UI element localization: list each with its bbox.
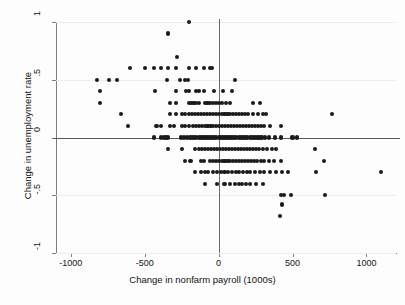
scatter-point [115,78,119,82]
scatter-point [274,170,278,174]
scatter-point [203,182,207,186]
scatter-point [289,193,293,197]
scatter-point [246,112,250,116]
scatter-point [282,193,286,197]
scatter-point [248,170,252,174]
scatter-point [279,159,283,163]
scatter-point [279,124,283,128]
scatter-point [251,112,255,116]
scatter-point [272,159,276,163]
scatter-point [187,89,191,93]
scatter-point [175,55,179,59]
scatter-point [197,89,201,93]
scatter-point [265,147,269,151]
y-tick-label: -.5 [26,184,48,195]
x-tick-label: 0 [189,258,249,268]
scatter-point [119,112,123,116]
scatter-point [152,66,156,70]
y-axis-title: Change in unemployment rate [22,21,33,251]
scatter-point [313,147,317,151]
scatter-point [251,101,255,105]
scatter-point [267,135,271,139]
scatter-point [174,66,178,70]
y-tick-label: 1 [26,11,48,16]
chart-figure: Change in unemployment rate 1.50-.5-1 -1… [0,0,405,305]
scatter-point [295,135,299,139]
scatter-point [233,78,237,82]
plot-area [56,22,396,253]
scatter-point [168,101,172,105]
scatter-point [166,66,170,70]
scatter-point [268,170,272,174]
scatter-point [202,89,206,93]
scatter-point [221,89,225,93]
scatter-point [187,20,191,24]
scatter-point [128,66,132,70]
y-tick-label: 0 [26,127,48,132]
scatter-point [228,182,232,186]
scatter-point [152,135,156,139]
scatter-point [258,101,262,105]
x-tick-label: 1000 [336,258,396,268]
scatter-point [166,147,170,151]
scatter-point [279,135,283,139]
scatter-point [248,182,252,186]
scatter-point [290,135,294,139]
scatter-point [330,112,334,116]
gridline-y [56,253,396,254]
scatter-point [193,170,197,174]
scatter-point [159,124,163,128]
scatter-point [274,147,278,151]
scatter-point [314,170,318,174]
x-tick-label: -500 [115,258,175,268]
gridline-y [56,22,396,23]
scatter-point [280,170,284,174]
scatter-point [202,159,206,163]
scatter-point [178,78,182,82]
scatter-point [322,159,326,163]
scatter-point [194,66,198,70]
scatter-point [159,66,163,70]
scatter-point [174,101,178,105]
scatter-point [174,112,178,116]
scatter-point [230,89,234,93]
x-tick-label: -1000 [41,258,101,268]
scatter-point [168,112,172,116]
scatter-point [210,66,214,70]
scatter-point [268,124,272,128]
scatter-point [254,182,258,186]
scatter-point [187,66,191,70]
scatter-point [379,170,383,174]
scatter-point [98,89,102,93]
scatter-point [202,66,206,70]
gridline-y [56,195,396,196]
scatter-point [264,112,268,116]
scatter-point [174,89,178,93]
scatter-point [228,101,232,105]
scatter-point [107,78,111,82]
scatter-point [206,170,210,174]
scatter-point [267,159,271,163]
x-tick-label: 500 [263,258,323,268]
scatter-point [95,78,99,82]
scatter-point [186,78,190,82]
scatter-point [180,147,184,151]
scatter-point [212,89,216,93]
scatter-point [98,101,102,105]
scatter-point [256,112,260,116]
y-tick-label: -1 [26,242,48,250]
scatter-point [197,101,201,105]
scatter-point [165,78,169,82]
scatter-point [253,170,257,174]
scatter-point [261,182,265,186]
scatter-point [222,182,226,186]
scatter-point [262,124,266,128]
scatter-point [280,202,284,206]
scatter-point [188,159,192,163]
scatter-point [126,124,130,128]
x-axis-title: Change in nonfarm payroll (1000s) [0,274,405,285]
y-tick-label: .5 [26,69,48,77]
scatter-point [143,66,147,70]
scatter-point [278,214,282,218]
scatter-point [273,135,277,139]
